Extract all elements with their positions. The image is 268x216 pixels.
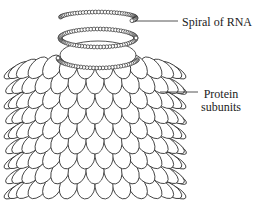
label-protein-subunits: Protein subunits: [201, 88, 241, 114]
rna-bead: [56, 56, 60, 60]
rna-bead: [130, 19, 134, 23]
label-protein-line2: subunits: [201, 101, 241, 114]
protein-subunit-coat: [2, 41, 188, 202]
rna-bead: [134, 36, 138, 40]
label-spiral-of-rna: Spiral of RNA: [182, 16, 252, 29]
